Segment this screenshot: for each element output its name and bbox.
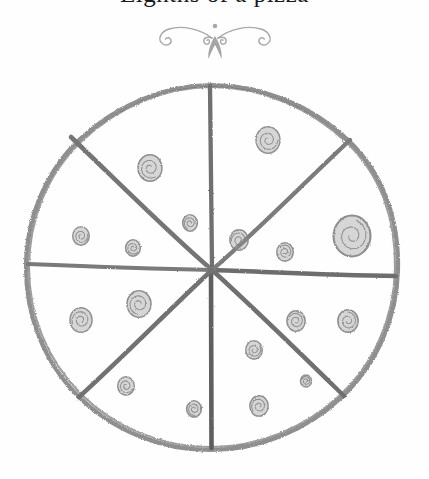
pepperoni-topping bbox=[70, 307, 92, 332]
pepperoni-topping bbox=[118, 376, 135, 395]
pepperoni-topping bbox=[186, 401, 202, 417]
pepperoni-topping bbox=[230, 229, 248, 250]
pepperoni-topping bbox=[73, 227, 90, 245]
pepperoni-topping bbox=[256, 127, 280, 154]
pepperoni-topping bbox=[332, 215, 371, 257]
ornament-dot-icon bbox=[213, 24, 218, 29]
pepperoni-topping bbox=[277, 243, 294, 261]
pepperoni-topping bbox=[126, 291, 151, 318]
pepperoni-topping bbox=[182, 215, 198, 231]
pizza-fraction-drawing bbox=[0, 56, 429, 479]
pepperoni-topping bbox=[287, 311, 306, 331]
pepperoni-topping bbox=[246, 341, 263, 359]
pepperoni-topping bbox=[300, 375, 311, 387]
pepperoni-topping bbox=[138, 154, 162, 182]
pepperoni-topping bbox=[250, 395, 268, 416]
pepperoni-topping bbox=[126, 240, 141, 257]
page-title-clip: Eighths of a pizza bbox=[0, 0, 429, 9]
page-title: Eighths of a pizza bbox=[0, 0, 429, 8]
pepperoni-topping bbox=[337, 309, 359, 332]
